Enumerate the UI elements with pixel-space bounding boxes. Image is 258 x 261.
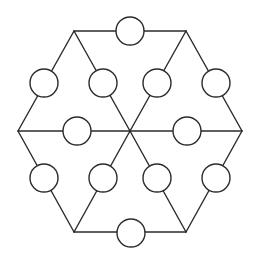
empty-circle[interactable] <box>63 117 91 145</box>
circle-slot-c-upper-right-outer[interactable] <box>202 69 230 97</box>
circle-slot-c-lower-left-outer[interactable] <box>30 164 58 192</box>
diagram-edges <box>18 31 242 232</box>
circle-slot-c-lower-right-inner[interactable] <box>143 164 171 192</box>
circle-slot-c-bottom[interactable] <box>117 219 145 247</box>
empty-circle[interactable] <box>143 69 171 97</box>
empty-circle[interactable] <box>202 69 230 97</box>
empty-circle[interactable] <box>30 69 58 97</box>
circle-slot-c-upper-right-inner[interactable] <box>143 69 171 97</box>
circle-slot-c-mid-left[interactable] <box>63 117 91 145</box>
empty-circle[interactable] <box>117 219 145 247</box>
empty-circle[interactable] <box>202 164 230 192</box>
empty-circle[interactable] <box>173 117 201 145</box>
empty-circle[interactable] <box>89 164 117 192</box>
circle-slot-c-mid-right[interactable] <box>173 117 201 145</box>
circle-slot-c-top[interactable] <box>116 17 144 45</box>
circle-slot-c-upper-left-inner[interactable] <box>89 69 117 97</box>
circle-slot-c-lower-left-inner[interactable] <box>89 164 117 192</box>
empty-circle[interactable] <box>143 164 171 192</box>
empty-circle[interactable] <box>116 17 144 45</box>
circle-slot-c-upper-left-outer[interactable] <box>30 69 58 97</box>
empty-circle[interactable] <box>89 69 117 97</box>
hexagon-circle-diagram <box>0 0 258 261</box>
empty-circle[interactable] <box>30 164 58 192</box>
circle-slot-c-lower-right-outer[interactable] <box>202 164 230 192</box>
